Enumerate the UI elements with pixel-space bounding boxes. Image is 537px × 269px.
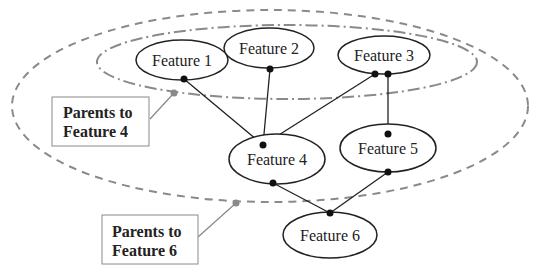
node-label: Feature 2 xyxy=(239,40,299,57)
callout-text-line1: Parents to xyxy=(112,223,181,240)
node-feature-3: Feature 3 xyxy=(338,36,430,74)
edge-f1-f4 xyxy=(184,79,263,145)
callout-dot-feature-6 xyxy=(233,200,240,207)
callout-line-feature-4 xyxy=(150,93,174,119)
node-label: Feature 1 xyxy=(152,52,212,69)
callout-text-line2: Feature 6 xyxy=(112,242,177,259)
callout-line-feature-6 xyxy=(198,203,236,237)
callout-dot-feature-4 xyxy=(171,90,178,97)
node-feature-4: Feature 4 xyxy=(229,134,325,184)
node-label: Feature 6 xyxy=(300,227,360,244)
feature-dependency-diagram: Feature 1 Feature 2 Feature 3 Feature 4 … xyxy=(0,0,537,269)
callout-text-line1: Parents to xyxy=(63,104,132,121)
callout-text-line2: Feature 4 xyxy=(63,123,128,140)
node-label: Feature 3 xyxy=(354,47,414,64)
node-label: Feature 4 xyxy=(247,151,307,168)
node-feature-1: Feature 1 xyxy=(136,40,228,80)
node-feature-6: Feature 6 xyxy=(283,212,377,258)
node-label: Feature 5 xyxy=(358,140,418,157)
node-feature-2: Feature 2 xyxy=(224,28,314,68)
edge-f4-f6 xyxy=(273,183,330,213)
